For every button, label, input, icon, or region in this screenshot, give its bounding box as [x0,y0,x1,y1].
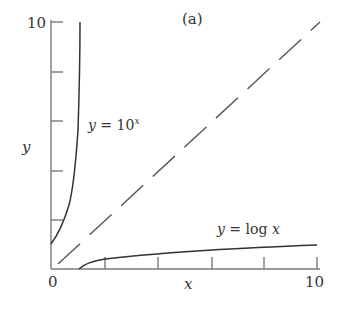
y-axis-label: y [21,138,31,156]
identity-line-dashed [58,22,320,264]
chart-canvas: 10 0 10 y x (a) y = 10x y = log x [0,0,341,317]
x-axis-label: x [184,275,193,293]
panel-label: (a) [182,10,203,28]
x-max-label: 10 [305,273,324,291]
x-zero-label: 0 [48,273,58,291]
exp-curve-label: y = 10x [87,116,139,133]
log-curve-label: y = log x [216,221,280,237]
x-ticks [105,257,317,269]
y-max-label: 10 [27,14,46,32]
log-curve [79,245,317,269]
y-ticks [51,22,63,220]
exp-curve [51,22,80,244]
